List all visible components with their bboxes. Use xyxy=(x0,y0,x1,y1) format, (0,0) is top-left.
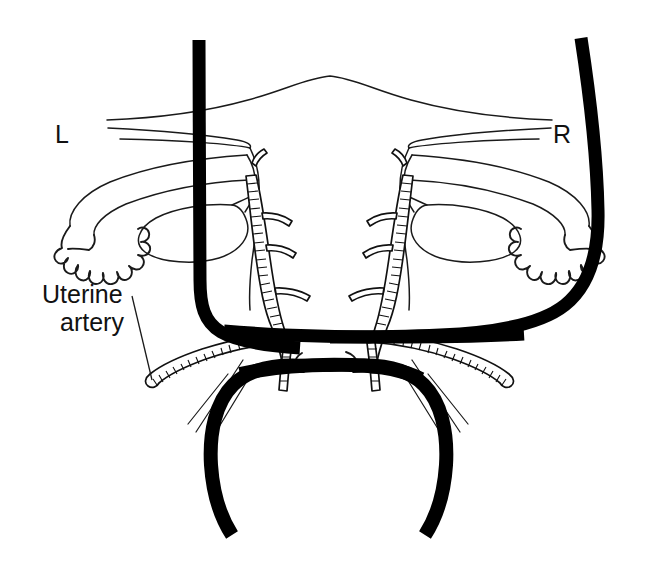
uterine-artery-figure: L R Uterine artery xyxy=(0,0,659,561)
uterine-artery-label-line2: artery xyxy=(60,308,124,336)
uterine-artery-label-line1: Uterine xyxy=(42,280,123,308)
upper-horizontal-clamp-band xyxy=(224,331,524,337)
right-side-label: R xyxy=(553,120,571,148)
anatomy-canvas: L R Uterine artery xyxy=(0,0,659,561)
left-side-label: L xyxy=(55,120,69,148)
